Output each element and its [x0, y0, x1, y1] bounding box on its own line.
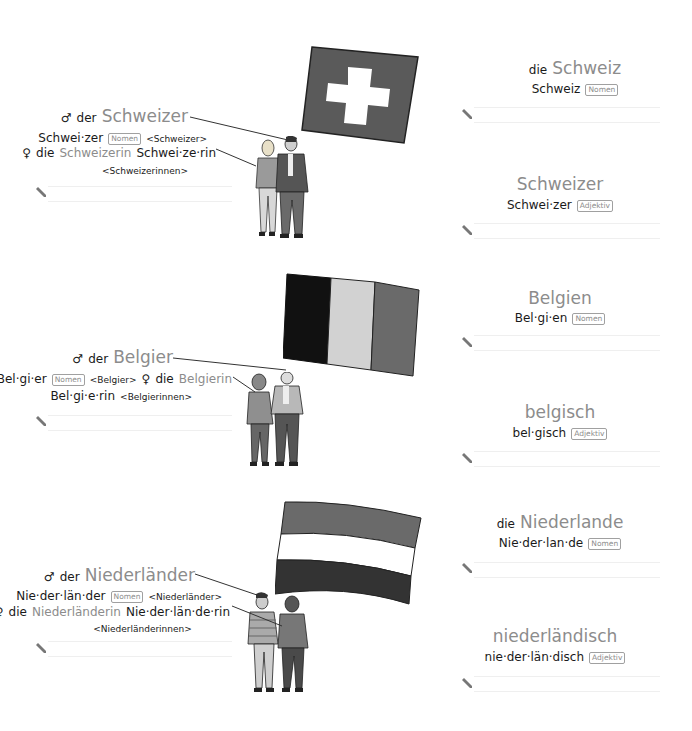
adjective-word: niederländisch — [493, 626, 618, 646]
male-word: Niederländer — [85, 565, 195, 585]
demonym-male-line: ♂ der Niederländer — [44, 565, 195, 585]
country-syllables: Nie·der·lan·de — [499, 536, 583, 550]
demonym-female-plural-line: <Niederländerinnen> — [80, 617, 205, 636]
adjective-title-line: niederländisch — [440, 626, 670, 646]
pencil-icon — [35, 642, 47, 654]
country-title-line: die Niederlande — [445, 512, 675, 532]
adjective-syllables: nie·der·län·disch — [485, 650, 584, 664]
male-symbol: ♂ — [44, 570, 55, 584]
female-symbol: ♀ — [0, 605, 4, 619]
country-word: Niederlande — [520, 512, 623, 532]
pencil-icon — [461, 562, 473, 574]
country-syllables-line: Nie·der·lan·de Nomen — [445, 532, 675, 551]
country-article: die — [497, 517, 515, 531]
writing-line[interactable] — [474, 562, 660, 578]
female-plural: <Niederländerinnen> — [93, 624, 192, 634]
writing-line[interactable] — [474, 676, 660, 692]
male-article: der — [60, 570, 80, 584]
writing-line[interactable] — [48, 641, 232, 657]
pencil-icon — [461, 677, 473, 689]
adjective-syllables-line: nie·der·län·disch Adjektiv — [440, 646, 670, 665]
word-type-tag: Adjektiv — [589, 652, 625, 664]
female-article: die — [9, 605, 27, 619]
word-type-tag: Nomen — [588, 538, 621, 550]
